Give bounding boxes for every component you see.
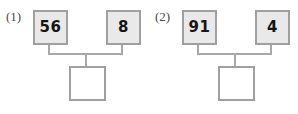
problem-2-sum-box[interactable]	[218, 66, 255, 101]
problem-2-addend-a-box[interactable]: 91	[182, 10, 217, 45]
problem-2-addend-b-value: 4	[267, 20, 278, 35]
problem-1-addend-b-box[interactable]: 8	[106, 10, 141, 45]
problem-2-addend-b-box[interactable]: 4	[255, 10, 290, 45]
problem-1: (1) 56 8	[0, 0, 149, 114]
problem-1-addend-b-value: 8	[118, 20, 129, 35]
problem-1-sum-box[interactable]	[69, 66, 106, 101]
problem-1-addend-a-box[interactable]: 56	[33, 10, 68, 45]
problem-2: (2) 91 4	[149, 0, 298, 114]
problem-2-addend-a-value: 91	[189, 20, 211, 35]
problem-1-addend-a-value: 56	[40, 20, 62, 35]
problem-1-label: (1)	[6, 9, 21, 24]
problem-2-label: (2)	[155, 9, 170, 24]
worksheet: (1) 56 8 (2) 91 4	[0, 0, 298, 114]
